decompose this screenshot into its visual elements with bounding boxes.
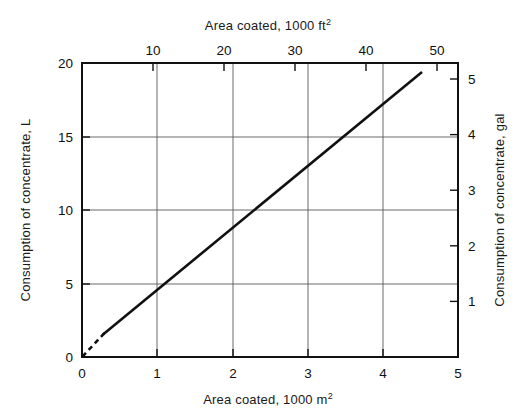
- top-tick-label-20: 20: [216, 43, 231, 58]
- right-tick-label-3: 3: [468, 183, 476, 198]
- right-tick-label-2: 2: [468, 239, 476, 254]
- left-tick-label-0: 0: [65, 350, 73, 365]
- bottom-tick-label-0: 0: [78, 366, 86, 381]
- left-tick-label-15: 15: [58, 130, 73, 145]
- left-tick-label-10: 10: [58, 203, 73, 218]
- bottom-tick-label-2: 2: [229, 366, 237, 381]
- bottom-axis-title-text: Area coated, 1000 m: [203, 392, 328, 407]
- right-tick-label-5: 5: [468, 72, 476, 87]
- left-tick-label-5: 5: [65, 277, 73, 292]
- top-axis-title-text: Area coated, 1000 ft: [205, 18, 326, 33]
- right-tick-label-4: 4: [468, 127, 476, 142]
- top-tick-label-40: 40: [358, 43, 373, 58]
- bottom-axis-title-superscript: 2: [328, 391, 333, 401]
- top-axis-title-superscript: 2: [326, 17, 331, 27]
- left-tick-label-20: 20: [58, 56, 73, 71]
- top-tick-label-50: 50: [429, 43, 444, 58]
- top-tick-label-10: 10: [145, 43, 160, 58]
- right-axis-title: Consumption of concentrate, gal: [492, 113, 507, 306]
- bottom-axis-title: Area coated, 1000 m2: [203, 391, 333, 407]
- bottom-tick-label-5: 5: [454, 366, 462, 381]
- top-axis-title: Area coated, 1000 ft2: [205, 17, 331, 33]
- bottom-tick-label-3: 3: [304, 366, 312, 381]
- right-tick-label-1: 1: [468, 294, 476, 309]
- top-tick-label-30: 30: [287, 43, 302, 58]
- left-axis-title: Consumption of concentrate, L: [18, 119, 33, 302]
- bottom-tick-label-4: 4: [379, 366, 387, 381]
- consumption-vs-area-chart: 0 1 2 3 4 5 10 20 30 40 50 0 5 10 15 20 …: [0, 0, 525, 420]
- bottom-tick-label-1: 1: [153, 366, 161, 381]
- chart-figure: 0 1 2 3 4 5 10 20 30 40 50 0 5 10 15 20 …: [0, 0, 525, 420]
